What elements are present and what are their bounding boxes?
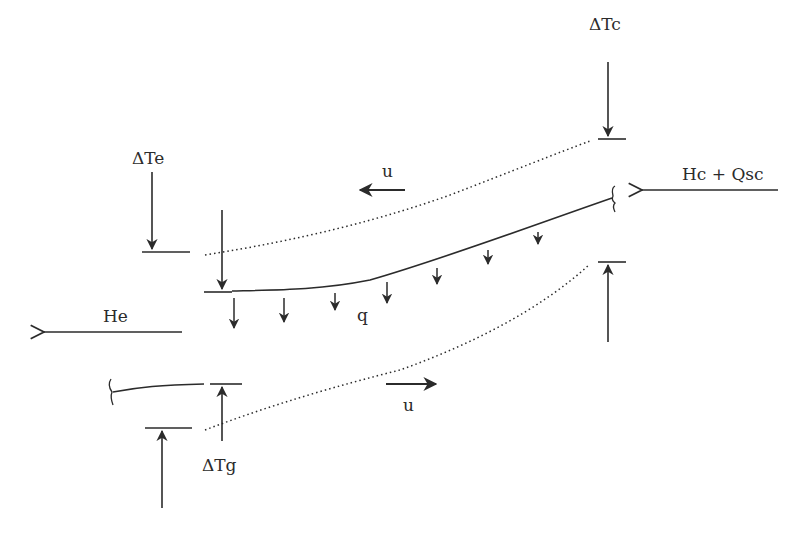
condenser-arrow-up — [598, 262, 626, 342]
delta-te-arrow — [142, 172, 190, 252]
lower-boundary-curve — [205, 264, 590, 430]
left-brace — [109, 379, 113, 405]
diagram-svg — [0, 0, 809, 537]
delta-tc-arrow — [598, 62, 626, 139]
lower-left-curve — [113, 384, 204, 392]
label-q: q — [357, 307, 368, 324]
label-he: He — [103, 308, 128, 325]
label-u-bottom: u — [403, 397, 414, 414]
centerline-curve — [232, 198, 612, 291]
label-delta-tg: ΔTg — [202, 457, 237, 474]
upper-boundary-curve — [205, 141, 590, 255]
label-delta-te: ΔTe — [132, 150, 164, 167]
right-brace — [612, 186, 615, 212]
label-hc-qsc: Hc + Qsc — [682, 166, 764, 183]
label-u-top: u — [382, 163, 393, 180]
label-delta-tc: ΔTc — [589, 16, 621, 33]
diagram-canvas: ΔTc ΔTe Hc + Qsc u He q u ΔTg — [0, 0, 809, 537]
q-arrows — [234, 232, 538, 328]
